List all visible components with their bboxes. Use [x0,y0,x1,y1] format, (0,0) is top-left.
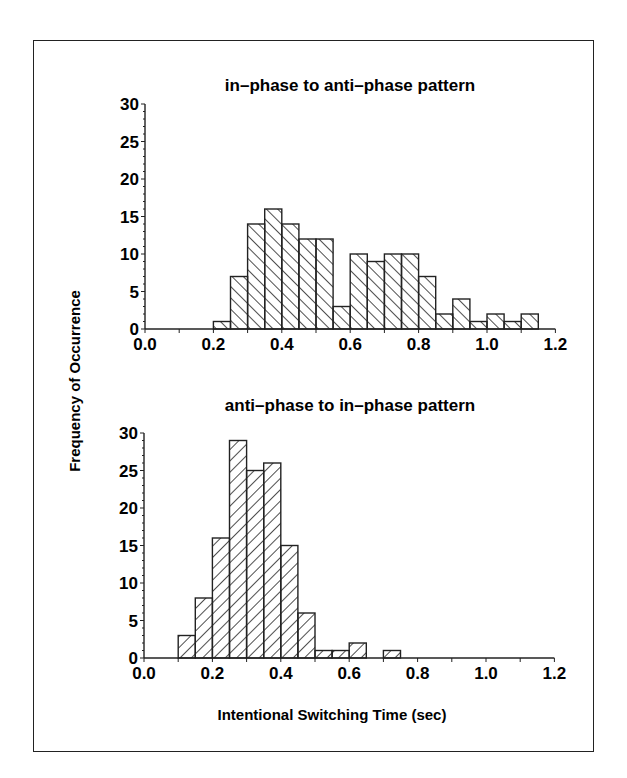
top-chart-title: in–phase to anti–phase pattern [225,76,475,95]
x-tick-label: 1.2 [543,664,567,683]
bottom-histogram-bars [178,441,400,659]
histogram-bar [298,613,315,658]
histogram-bar [419,277,436,330]
x-tick-label: 0.0 [132,664,156,683]
histogram-bar [316,239,333,329]
histogram-bar [282,224,299,329]
y-tick-label: 30 [119,424,138,443]
histogram-bar [231,277,248,330]
histogram-bar [436,314,453,329]
histogram-bar [248,224,265,329]
x-tick-label: 1.0 [474,664,498,683]
histogram-bar [367,262,384,330]
histogram-bar [384,254,401,329]
histogram-bar [299,239,316,329]
histogram-bar [487,314,504,329]
histogram-bar [383,651,400,659]
y-tick-label: 15 [119,537,138,556]
x-tick-label: 0.4 [270,335,294,354]
x-tick-label: 0.6 [337,664,361,683]
x-tick-label: 1.2 [544,335,568,354]
y-tick-label: 25 [119,462,138,481]
histogram-bar [178,636,195,659]
histogram-bar [265,209,282,329]
histogram-bar [453,299,470,329]
top-histogram-bars [213,209,538,329]
x-tick-label: 0.2 [201,664,225,683]
y-tick-label: 30 [120,95,139,114]
bottom-chart-title: anti–phase to in–phase pattern [225,396,475,415]
histogram-bar [281,546,298,659]
histogram-bar [349,643,366,658]
x-tick-label: 0.2 [202,335,226,354]
x-axis-label: Intentional Switching Time (sec) [218,706,447,723]
histogram-bar [504,322,521,330]
x-tick-label: 0.6 [338,335,362,354]
histogram-bar [332,651,349,659]
y-tick-label: 25 [120,133,139,152]
x-tick-label: 0.8 [407,335,431,354]
histogram-bar [350,254,367,329]
histogram-bar [264,463,281,658]
histogram-figure: Frequency of Occurrence in–phase to anti… [0,0,627,778]
x-tick-label: 0.0 [133,335,157,354]
histogram-bar [212,538,229,658]
histogram-bar [521,314,538,329]
y-tick-label: 10 [119,574,138,593]
histogram-bar [333,307,350,330]
y-tick-label: 5 [129,612,138,631]
y-tick-label: 20 [120,170,139,189]
y-axis-label: Frequency of Occurrence [66,290,83,472]
histogram-bar [470,322,487,330]
histogram-bar [315,651,332,659]
x-tick-label: 0.8 [406,664,430,683]
histogram-bar [402,254,419,329]
x-tick-label: 1.0 [475,335,499,354]
y-tick-label: 15 [120,208,139,227]
histogram-bar [230,441,247,659]
bottom-histogram-panel: anti–phase to in–phase pattern 051015202… [119,396,566,683]
histogram-bar [213,322,230,330]
y-tick-label: 5 [130,283,139,302]
x-tick-label: 0.4 [269,664,293,683]
histogram-bar [247,471,264,659]
y-tick-label: 10 [120,245,139,264]
top-histogram-panel: in–phase to anti–phase pattern 051015202… [120,76,567,354]
y-tick-label: 20 [119,499,138,518]
histogram-bar [195,598,212,658]
